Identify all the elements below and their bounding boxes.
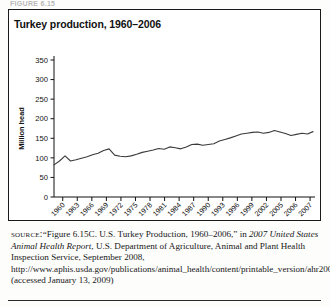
x-axis-tick-label: 2006: [282, 201, 300, 219]
x-axis-tick-label: 1960: [49, 201, 67, 219]
y-axis-title: Million head: [17, 107, 26, 150]
y-axis-tick-label: 150: [35, 134, 48, 143]
source-text-1: “Figure 6.15C. U.S. Turkey Production, 1…: [43, 229, 249, 239]
x-axis-tick-label: 1975: [122, 201, 140, 219]
x-axis-tick-label: 1972: [107, 201, 125, 219]
x-axis-tick-label: 1993: [209, 201, 227, 219]
y-axis-tick-label: 300: [35, 75, 48, 84]
y-axis-tick-label: 50: [40, 173, 48, 182]
x-axis-tick-label: 2002: [253, 201, 271, 219]
bottom-divider: [8, 300, 321, 301]
line-chart-svg: 050100150200250300350Million head1960196…: [8, 9, 321, 221]
y-axis-tick-label: 200: [35, 114, 48, 123]
x-axis-tick-label: 1984: [165, 201, 183, 219]
x-axis-tick-label: 1987: [180, 201, 198, 219]
y-axis-tick-label: 350: [35, 56, 48, 65]
chart-plot-area: 050100150200250300350Million head1960196…: [8, 9, 321, 221]
source-note: source:“Figure 6.15C. U.S. Turkey Produc…: [11, 229, 320, 287]
x-axis-tick-label: 2005: [267, 201, 285, 219]
production-series-line: [54, 130, 313, 164]
cropped-header-text: FIGURE 6.15: [10, 0, 130, 6]
source-label: source:: [11, 229, 43, 239]
y-axis-tick-label: 250: [35, 95, 48, 104]
x-axis-tick-label: 1981: [151, 201, 169, 219]
x-axis-tick-label: 1990: [194, 201, 212, 219]
y-axis-tick-label: 0: [44, 193, 48, 202]
x-axis-tick-label: 1963: [64, 201, 82, 219]
x-axis-tick-label: 1999: [238, 201, 256, 219]
x-axis-tick-label: 1978: [136, 201, 154, 219]
y-axis-tick-label: 100: [35, 154, 48, 163]
x-axis-tick-label: 1969: [93, 201, 111, 219]
x-axis-tick-label: 2007: [296, 201, 314, 219]
x-axis-tick-label: 1996: [224, 201, 242, 219]
figure-page: FIGURE 6.15 Turkey production, 1960–2006…: [0, 0, 330, 307]
x-axis-tick-label: 1966: [78, 201, 96, 219]
